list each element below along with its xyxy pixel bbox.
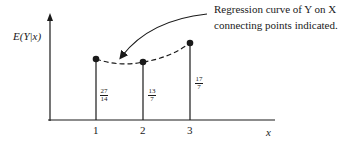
y-axis-arrowhead [47,13,53,21]
value-x3: 17 7 [195,76,203,91]
x-axis-label: x [266,126,271,138]
point-x1 [93,56,100,63]
x-tick-2: 2 [140,124,146,136]
point-x3 [187,40,194,47]
annotation-arrow [122,14,207,56]
value-x1: 27 14 [100,88,108,103]
annotation-line1: Regression curve of Y on X [214,3,336,15]
value-x2-den: 7 [150,96,154,103]
x-tick-3: 3 [187,124,193,136]
value-x1-den: 14 [101,96,108,103]
y-axis-label: E(Y|x) [13,30,41,42]
value-x2: 13 7 [148,88,156,103]
x-tick-1: 1 [93,124,99,136]
value-x3-den: 7 [197,84,201,91]
point-x2 [140,59,147,66]
annotation-line2: connecting points indicated. [214,19,338,31]
